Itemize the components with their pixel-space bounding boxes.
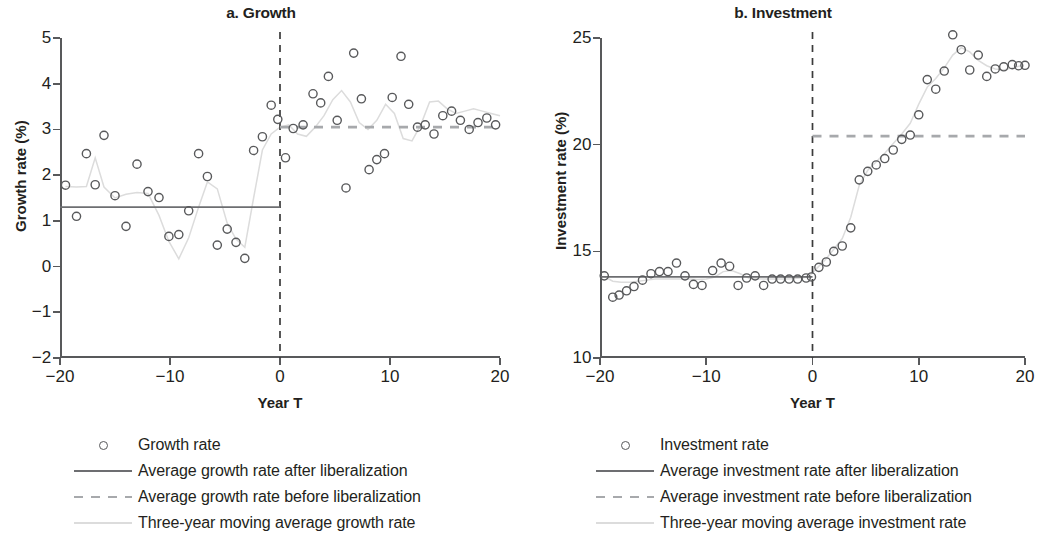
panel-b-y-axis-title: Investment rate (%) [552,112,569,250]
legend-key [68,470,138,472]
legend-label: Investment rate [660,436,769,454]
y-tick-label: 20 [573,135,592,155]
legend-key [68,496,138,499]
data-point [61,181,69,189]
legend-label: Average growth rate before liberalizatio… [138,488,421,506]
y-tick-label: 15 [573,241,592,261]
legend-key [590,470,660,472]
legend-row: Average investment rate before liberaliz… [590,484,972,510]
data-point [881,154,889,162]
x-tick-label: 20 [491,367,510,387]
data-point [267,101,275,109]
legend-dashed-line-icon [74,496,132,499]
legend-circle-marker-icon [621,441,630,450]
data-point [241,254,249,262]
panel-a-plot-area: Year T −2−1012345−20−1001020 [60,38,500,358]
x-tick-label: 0 [275,367,284,387]
data-point [195,150,203,158]
y-tick [53,129,60,131]
data-point [258,133,266,141]
legend-row: Average growth rate after liberalization [68,458,421,484]
legend-row: Average growth rate before liberalizatio… [68,484,421,510]
legend-label: Average investment rate after liberaliza… [660,462,959,480]
data-point [726,262,734,270]
legend-circle-marker-icon [99,441,108,450]
panel-a-x-axis-title: Year T [257,394,302,411]
panel-a-legend: Growth rateAverage growth rate after lib… [68,432,421,536]
y-tick-label: 2 [42,165,51,185]
data-point [600,272,608,280]
data-point [760,281,768,289]
data-point [430,130,438,138]
data-point [100,131,108,139]
data-point [373,156,381,164]
data-point [923,76,931,84]
x-tick [812,358,814,365]
legend-key [68,441,138,450]
legend-solid-line-icon [596,470,654,472]
x-tick [918,358,920,365]
y-tick [593,144,600,146]
data-point [889,146,897,154]
data-point [966,66,974,74]
data-point [397,52,405,60]
data-point [474,118,482,126]
panel-b-plot-area: Year T 10152025−20−1001020 [600,38,1025,358]
y-tick [53,174,60,176]
data-point [655,268,663,276]
x-tick-label: 10 [909,367,928,387]
data-point [155,193,163,201]
x-tick [279,358,281,365]
data-point [274,115,282,123]
data-point [350,49,358,57]
data-point [122,222,130,230]
data-point [133,160,141,168]
legend-key [68,522,138,524]
panel-a-title: a. Growth [0,4,522,22]
x-tick-label: 0 [808,367,817,387]
legend-light-line-icon [74,522,132,524]
y-tick-label: 10 [573,348,592,368]
data-point [906,131,914,139]
y-tick-label: 1 [42,211,51,231]
data-point [421,121,429,129]
y-tick [53,37,60,39]
legend-key [590,522,660,524]
legend-row: Average investment rate after liberaliza… [590,458,972,484]
data-point [175,230,183,238]
x-tick-label: −10 [156,367,185,387]
legend-light-line-icon [596,522,654,524]
data-point [213,241,221,249]
x-tick-label: −20 [46,367,75,387]
panel-b-series-layer [600,38,1025,358]
x-tick-label: 20 [1016,367,1035,387]
legend-row: Investment rate [590,432,972,458]
legend-row: Three-year moving average growth rate [68,510,421,536]
x-tick [169,358,171,365]
data-point [342,184,350,192]
data-point [664,268,672,276]
data-point [324,72,332,80]
x-tick [499,358,501,365]
data-point [838,242,846,250]
x-tick [59,358,61,365]
data-point [734,281,742,289]
y-tick-label: 5 [42,28,51,48]
data-point [439,112,447,120]
y-tick-label: −1 [32,302,51,322]
y-tick-label: 25 [573,28,592,48]
data-point [309,90,317,98]
data-point [932,85,940,93]
y-tick-label: 4 [42,74,51,94]
data-point [281,154,289,162]
data-point [630,282,638,290]
x-tick [599,358,601,365]
data-point [388,93,396,101]
data-point [203,172,211,180]
legend-label: Growth rate [138,436,221,454]
panel-b-x-axis-title: Year T [790,394,835,411]
data-point [357,95,365,103]
data-point [974,51,982,59]
y-tick [53,311,60,313]
y-tick [593,37,600,39]
